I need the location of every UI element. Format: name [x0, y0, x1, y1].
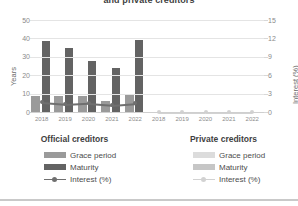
legend-item-label: Grace period: [219, 151, 265, 160]
legend-item[interactable]: Interest (%): [193, 173, 298, 185]
y-axis-label-right: Interest (%): [291, 65, 298, 104]
gridline: [30, 75, 264, 76]
x-tick-label: 2018: [147, 116, 170, 122]
panel-title-official: Official creditors: [0, 134, 149, 144]
y-tick-left: 10: [22, 90, 30, 97]
legend-line-marker-icon: [193, 176, 215, 182]
legend-official: Official creditors Grace periodMaturityI…: [0, 134, 149, 185]
x-tick-label: 2021: [100, 116, 123, 122]
bar-group: [124, 20, 147, 112]
y-tick-left: 40: [22, 35, 30, 42]
y-tick-right: 9: [268, 53, 272, 60]
legend-item[interactable]: Interest (%): [44, 173, 149, 185]
interest-point: [110, 103, 114, 107]
legend-item-label: Interest (%): [70, 175, 111, 184]
panel-official: [30, 20, 147, 112]
chart-title: and private creditors: [0, 0, 298, 5]
bar-group: [53, 20, 76, 112]
y-tick-left: 50: [22, 17, 30, 24]
x-tick-label: 2022: [241, 116, 264, 122]
footer-rule: [0, 199, 298, 201]
y-axis-label-left: Years: [9, 67, 18, 86]
plot-area: [30, 20, 264, 112]
legend-private: Private creditors Grace periodMaturityIn…: [149, 134, 298, 185]
legend-item-label: Maturity: [219, 163, 247, 172]
y-tick-left: 0: [26, 109, 30, 116]
legend-items-private: Grace periodMaturityInterest (%): [149, 149, 298, 185]
bar-group: [217, 20, 240, 112]
chart-figure: and private creditors Years Interest (%)…: [0, 0, 298, 206]
legend-item-label: Interest (%): [219, 175, 260, 184]
y-tick-right: 6: [268, 72, 272, 79]
bar-group: [30, 20, 53, 112]
legend-block: Official creditors Grace periodMaturityI…: [0, 134, 298, 200]
legend-swatch-icon: [193, 152, 215, 158]
legend-swatch-icon: [44, 164, 66, 170]
x-tick-label: 2019: [170, 116, 193, 122]
y-tick-left: 30: [22, 53, 30, 60]
gridline: [30, 38, 264, 39]
bar-group: [170, 20, 193, 112]
y-tick-right: 15: [268, 17, 276, 24]
bar-grace-period: [101, 101, 110, 112]
legend-swatch-icon: [193, 164, 215, 170]
x-tick-label: 2021: [217, 116, 240, 122]
legend-item[interactable]: Grace period: [44, 149, 149, 161]
gridline: [30, 57, 264, 58]
panel-private: [147, 20, 264, 112]
legend-item[interactable]: Maturity: [44, 161, 149, 173]
x-tick-label: 2022: [124, 116, 147, 122]
bar-grace-period: [31, 96, 40, 112]
bar-group: [77, 20, 100, 112]
x-tick-label: 2018: [30, 116, 53, 122]
x-axis-ticks: 2018201920202021202220182019202020212022: [30, 116, 264, 126]
bar-group: [147, 20, 170, 112]
x-tick-label: 2019: [53, 116, 76, 122]
gridline: [30, 94, 264, 95]
legend-items-official: Grace periodMaturityInterest (%): [0, 149, 149, 185]
legend-item-label: Grace period: [70, 151, 116, 160]
y-tick-right: 0: [268, 109, 272, 116]
chart-area: Years Interest (%) 201820192020202120222…: [0, 8, 298, 130]
interest-point: [87, 101, 91, 105]
panel-title-private: Private creditors: [149, 134, 298, 144]
x-axis-line: [30, 112, 264, 113]
x-tick-label: 2020: [194, 116, 217, 122]
bar-group: [100, 20, 123, 112]
interest-point: [40, 100, 44, 104]
x-tick-label: 2020: [77, 116, 100, 122]
legend-item[interactable]: Maturity: [193, 161, 298, 173]
gridline: [30, 20, 264, 21]
legend-item[interactable]: Grace period: [193, 149, 298, 161]
bar-group: [194, 20, 217, 112]
legend-swatch-icon: [44, 152, 66, 158]
bar-group: [241, 20, 264, 112]
y-tick-right: 12: [268, 35, 276, 42]
legend-item-label: Maturity: [70, 163, 98, 172]
legend-line-marker-icon: [44, 176, 66, 182]
y-tick-left: 20: [22, 72, 30, 79]
y-tick-right: 3: [268, 90, 272, 97]
